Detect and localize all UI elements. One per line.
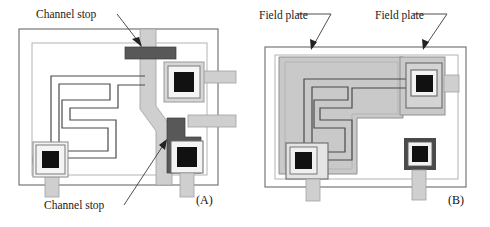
panel-b-pad-tr-contact bbox=[416, 75, 433, 92]
channel-stop-bottom-label: Channel stop bbox=[44, 199, 105, 212]
figure-root: Channel stop Channel stop (A) bbox=[0, 0, 490, 227]
layout-diagram-svg: Channel stop Channel stop (A) bbox=[0, 0, 490, 227]
panel-b-pad-bl-contact bbox=[295, 152, 312, 169]
panel-b-pad-br-stem bbox=[412, 170, 426, 200]
panel-b-pad-bl-stem bbox=[306, 179, 320, 201]
panel-a-pad-br-contact bbox=[177, 147, 197, 167]
field-plate-right-label: Field plate bbox=[375, 9, 424, 22]
panel-a-pad-tr-contact bbox=[174, 72, 194, 92]
panel-a-pad-bl-contact bbox=[42, 151, 59, 168]
panel-b-label: (B) bbox=[448, 193, 464, 207]
field-plate-left-label: Field plate bbox=[259, 9, 308, 22]
panel-a-lower-right-lead bbox=[188, 115, 236, 127]
channel-stop-top-label: Channel stop bbox=[36, 8, 97, 21]
panel-a-label: (A) bbox=[196, 193, 213, 207]
top-channel-stop-bar bbox=[125, 47, 176, 59]
panel-b-pad-br-contact bbox=[412, 146, 428, 162]
panel-a-pad-br-stem bbox=[180, 173, 194, 197]
panel-b-pad-tr-lead bbox=[444, 75, 459, 92]
